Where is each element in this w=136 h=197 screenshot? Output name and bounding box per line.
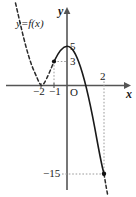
graph-canvas <box>0 0 136 197</box>
origin-label: O <box>70 87 78 98</box>
x-tick-label-neg1: −1 <box>49 86 61 97</box>
x-axis <box>6 82 131 89</box>
point-neg1-3 <box>52 59 56 63</box>
x-tick-label-2: 2 <box>100 71 106 82</box>
y-tick-label-5: 5 <box>70 41 76 52</box>
y-axis-label: y <box>58 5 63 17</box>
y-tick-label-neg15: −15 <box>43 168 60 179</box>
point-2-neg15 <box>102 172 106 176</box>
curve-solid-main <box>54 46 104 173</box>
x-axis-label: x <box>126 88 132 100</box>
curve-dashed-right <box>104 174 108 194</box>
function-label: y=f(x) <box>16 18 44 29</box>
guide-lines <box>54 62 104 175</box>
x-tick-label-neg2: −2 <box>33 86 45 97</box>
curve-dashed-left <box>16 3 55 86</box>
y-tick-label-3: 3 <box>70 56 76 67</box>
y-axis <box>64 7 71 190</box>
function-graph-figure: y=f(x) y x O 5 3 2 −2 −1 −15 <box>0 0 136 197</box>
